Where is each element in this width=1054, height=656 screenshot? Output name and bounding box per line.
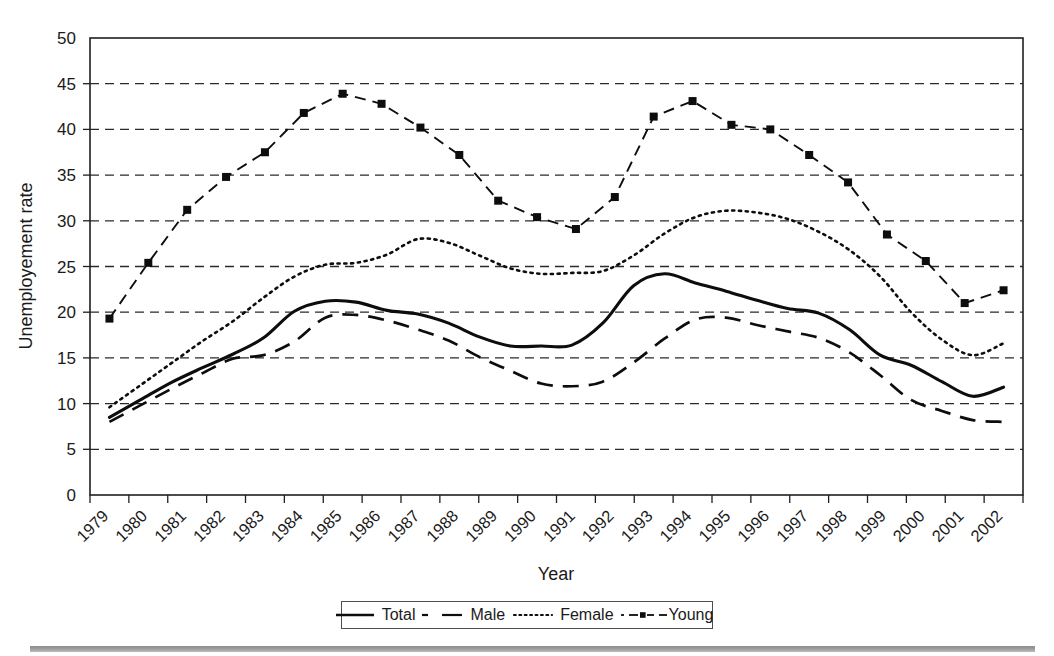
dashed-line-swatch: [422, 609, 464, 621]
legend-item-female: Female: [512, 607, 620, 623]
series-marker-young: [805, 151, 813, 159]
x-tick-label: 1986: [345, 506, 384, 545]
solid-line-swatch: [334, 609, 376, 621]
y-tick-label: 35: [57, 166, 76, 185]
series-marker-young: [339, 90, 347, 98]
series-marker-young: [533, 213, 541, 221]
x-tick-labels-group: 1979198019811982198319841985198619871988…: [73, 506, 1006, 545]
series-marker-young: [494, 197, 502, 205]
x-tick-label: 1984: [267, 506, 306, 545]
x-tick-label: 1992: [578, 506, 617, 545]
x-tick-label: 1988: [423, 506, 462, 545]
x-tick-label: 1994: [656, 506, 695, 545]
x-tick-label: 2002: [967, 506, 1006, 545]
x-tick-label: 1995: [695, 506, 734, 545]
series-marker-young: [883, 231, 891, 239]
series-marker-young: [766, 125, 774, 133]
series-line-young: [109, 94, 1003, 319]
x-tick-label: 1997: [773, 506, 812, 545]
series-marker-young: [378, 100, 386, 108]
series-marker-young: [611, 193, 619, 201]
legend-item-young: Young: [621, 607, 721, 623]
y-tick-label: 15: [57, 349, 76, 368]
series-marker-young: [572, 225, 580, 233]
y-tick-label: 40: [57, 120, 76, 139]
x-tick-label: 1990: [500, 506, 539, 545]
y-axis-title: Unemployement rate: [16, 182, 36, 349]
series-line-female: [109, 211, 1003, 408]
series-marker-young: [727, 121, 735, 129]
x-tick-label: 1981: [151, 506, 190, 545]
series-marker-young: [416, 124, 424, 132]
legend-label-young: Young: [663, 607, 721, 623]
tick-marks-group: [83, 84, 1023, 503]
y-tick-label: 25: [57, 258, 76, 277]
y-tick-label: 50: [57, 29, 76, 48]
y-tick-label: 0: [67, 486, 76, 505]
x-tick-label: 1982: [189, 506, 228, 545]
series-marker-young: [922, 257, 930, 265]
legend-label-female: Female: [554, 607, 620, 623]
x-tick-label: 1991: [539, 506, 578, 545]
x-tick-label: 2000: [889, 506, 928, 545]
series-marker-young: [844, 178, 852, 186]
x-tick-label: 1999: [850, 506, 889, 545]
series-marker-young: [183, 206, 191, 214]
x-axis-title: Year: [538, 564, 574, 584]
series-marker-young: [300, 109, 308, 117]
y-tick-label: 10: [57, 395, 76, 414]
x-tick-label: 1980: [112, 506, 151, 545]
x-tick-label: 1983: [228, 506, 267, 545]
series-marker-young: [144, 259, 152, 267]
y-tick-label: 20: [57, 303, 76, 322]
series-marker-young: [689, 97, 697, 105]
y-tick-label: 5: [67, 440, 76, 459]
x-tick-label: 1989: [462, 506, 501, 545]
dotted-line-swatch: [512, 609, 554, 621]
legend-item-male: Male: [422, 607, 512, 623]
data-series-group: [105, 90, 1007, 422]
y-tick-label: 30: [57, 212, 76, 231]
series-marker-young: [961, 299, 969, 307]
x-tick-label: 1979: [73, 506, 112, 545]
x-tick-label: 1993: [617, 506, 656, 545]
series-line-total: [109, 274, 1003, 418]
x-tick-label: 1985: [306, 506, 345, 545]
series-marker-young: [650, 113, 658, 121]
y-tick-label: 45: [57, 75, 76, 94]
dash-square-line-swatch: [621, 609, 663, 621]
series-line-male: [109, 314, 1003, 421]
legend-label-male: Male: [464, 607, 512, 623]
chart-figure: 05101520253035404550 1979198019811982198…: [0, 0, 1054, 656]
chart-legend: Total Male Female: [341, 601, 713, 629]
x-tick-label: 1987: [384, 506, 423, 545]
legend-label-total: Total: [376, 607, 423, 623]
series-marker-young: [261, 148, 269, 156]
x-tick-label: 2001: [928, 506, 967, 545]
x-tick-label: 1998: [811, 506, 850, 545]
page-footer-rule: [30, 646, 1035, 652]
y-tick-labels-group: 05101520253035404550: [57, 29, 76, 505]
gridlines-group: [90, 84, 1023, 450]
x-tick-label: 1996: [734, 506, 773, 545]
line-chart-canvas: 05101520253035404550 1979198019811982198…: [0, 0, 1054, 656]
series-marker-young: [1000, 286, 1008, 294]
series-marker-young: [105, 315, 113, 323]
series-marker-young: [455, 151, 463, 159]
legend-item-total: Total: [334, 607, 423, 623]
series-marker-young: [222, 173, 230, 181]
